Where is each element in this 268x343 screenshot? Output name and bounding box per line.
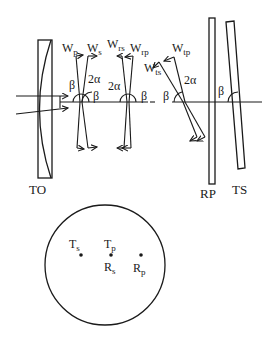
label-beta-5: β (218, 84, 224, 98)
lens-curve (40, 40, 52, 178)
reflector-ts (226, 21, 245, 169)
label-spot-tp: Tp (104, 237, 116, 253)
label-wp: Wp (62, 41, 78, 57)
incoming-beam-2 (16, 108, 68, 114)
reflector-rp (209, 18, 215, 184)
label-2alpha-3: 2α (184, 73, 197, 87)
label-wtp: Wtp (172, 41, 191, 57)
label-ws: Ws (87, 41, 102, 57)
label-wts: Wts (144, 61, 162, 77)
label-spot-ts: Ts (69, 237, 80, 253)
objective-lens (38, 40, 52, 178)
label-beta-4: β (163, 89, 169, 103)
optical-diagram: Wp Ws Wrs Wrp Wts Wtp β 2α β 2α β β 2α β… (0, 0, 268, 343)
spot-ts (79, 253, 83, 257)
label-2alpha-2: 2α (108, 79, 121, 93)
label-wrp: Wrp (130, 41, 149, 57)
label-spot-rs: Rs (104, 260, 116, 276)
label-beta-3: β (141, 89, 147, 103)
label-to: TO (29, 182, 46, 197)
label-beta-2: β (93, 89, 99, 103)
spot-rp (139, 253, 143, 257)
label-wrs: Wrs (107, 37, 125, 53)
label-spot-rp: Rp (133, 261, 146, 277)
label-ts: TS (232, 182, 247, 197)
spot-tp-rs (109, 253, 113, 257)
label-2alpha-1: 2α (88, 72, 101, 86)
label-rp: RP (200, 186, 216, 201)
label-beta-1: β (69, 78, 75, 92)
